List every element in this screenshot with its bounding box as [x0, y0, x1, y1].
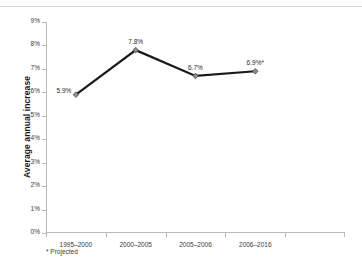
y-tick-label: 5%: [31, 111, 40, 118]
x-tick-label-2: 2005–2006: [179, 241, 212, 248]
x-tick-label-0: 1995–2000: [60, 241, 93, 248]
y-tick-label: 8%: [31, 40, 40, 47]
data-marker-3: [253, 68, 259, 74]
data-point-label-3: 6.9%*: [247, 59, 264, 66]
top-divider-rule: [0, 6, 362, 7]
plot-area: 0%1%2%3%4%5%6%7%8%9% 1995–20002000–20052…: [46, 22, 345, 233]
series-polyline: [76, 50, 255, 95]
y-tick-label: 9%: [31, 17, 40, 24]
x-tick-label-1: 2000–2005: [119, 241, 152, 248]
y-tick-label: 4%: [31, 134, 40, 141]
data-point-label-0: 5.9%: [56, 87, 71, 94]
footnote-projected: * Projected: [46, 248, 78, 255]
y-tick-label: 2%: [31, 181, 40, 188]
x-tick-label-3: 2006–2016: [239, 241, 272, 248]
chart-figure: Average annual increase 0%1%2%3%4%5%6%7%…: [0, 0, 362, 273]
y-axis-title: Average annual increase: [22, 32, 32, 222]
data-point-label-1: 7.8%: [128, 38, 143, 45]
y-tick-label: 1%: [31, 205, 40, 212]
y-tick-label: 0%: [31, 228, 40, 235]
y-tick-label: 6%: [31, 87, 40, 94]
y-tick-label: 3%: [31, 158, 40, 165]
y-tick-label: 7%: [31, 64, 40, 71]
data-point-label-2: 6.7%: [188, 64, 203, 71]
data-series-line: [46, 22, 345, 233]
